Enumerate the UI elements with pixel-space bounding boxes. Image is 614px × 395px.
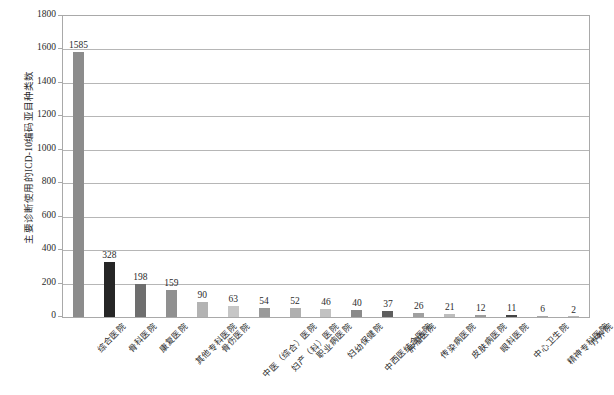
bar-slot: 90 (187, 16, 218, 317)
bar[interactable] (568, 316, 579, 317)
y-tick-label: 1600 (10, 42, 56, 52)
bar-value-label: 40 (352, 298, 362, 308)
bar-value-label: 2 (571, 305, 576, 315)
bar-value-label: 52 (290, 296, 300, 306)
bar-slot: 40 (341, 16, 372, 317)
bar-value-label: 159 (164, 278, 178, 288)
bar[interactable] (197, 302, 208, 317)
x-tick-label: 综合医院 (94, 320, 128, 354)
y-tick-label: 800 (10, 176, 56, 186)
bar-slot: 159 (156, 16, 187, 317)
bar[interactable] (228, 306, 239, 317)
bar-value-label: 46 (321, 297, 331, 307)
bar-slot: 6 (527, 16, 558, 317)
bar-value-label: 198 (133, 272, 147, 282)
bar[interactable] (104, 262, 115, 317)
bar-slot: 52 (280, 16, 311, 317)
x-tick-label: 疗养院 (586, 320, 614, 348)
bar-value-label: 63 (228, 294, 238, 304)
bar-value-label: 6 (540, 304, 545, 314)
y-tick-label: 1200 (10, 109, 56, 119)
bar-slot: 2 (558, 16, 589, 317)
y-tick-label: 400 (10, 243, 56, 253)
x-axis-labels: 综合医院骨科医院康复医院其他专科医院骨伤医院中医（综合）医院妇产（科）医院职业病… (62, 320, 590, 395)
bar-slot: 198 (125, 16, 156, 317)
bar[interactable] (444, 314, 455, 318)
bar-slot: 46 (311, 16, 342, 317)
bar[interactable] (475, 315, 486, 317)
bar-value-label: 11 (507, 303, 516, 313)
bar[interactable] (73, 52, 84, 317)
bar[interactable] (382, 311, 393, 317)
y-tick-label: 600 (10, 210, 56, 220)
y-tick-label: 1000 (10, 143, 56, 153)
x-tick-label: 中心卫生院 (530, 320, 570, 360)
x-tick-label: 康复医院 (156, 320, 190, 354)
bar[interactable] (135, 284, 146, 317)
x-tick-label: 骨科医院 (125, 320, 159, 354)
gridline (63, 317, 589, 318)
bar-value-label: 21 (445, 302, 455, 312)
bar-value-label: 54 (259, 296, 269, 306)
y-tick-label: 1800 (10, 9, 56, 19)
y-tick-label: 1400 (10, 76, 56, 86)
bar-slot: 26 (403, 16, 434, 317)
bar-slot: 11 (496, 16, 527, 317)
bar-series: 1585328198159906354524640372621121162 (63, 16, 589, 317)
bar[interactable] (166, 290, 177, 317)
bar-value-label: 328 (102, 250, 116, 260)
bar-slot: 54 (249, 16, 280, 317)
bar-slot: 1585 (63, 16, 94, 317)
bar-slot: 12 (465, 16, 496, 317)
y-tick-label: 0 (10, 310, 56, 320)
bar-slot: 328 (94, 16, 125, 317)
bar-slot: 21 (434, 16, 465, 317)
bar-value-label: 90 (197, 290, 207, 300)
bar[interactable] (506, 315, 517, 317)
bar[interactable] (413, 313, 424, 317)
bar[interactable] (259, 308, 270, 317)
bar-value-label: 26 (414, 301, 424, 311)
y-tick-label: 200 (10, 277, 56, 287)
bar-value-label: 37 (383, 299, 393, 309)
bar[interactable] (320, 309, 331, 317)
bar[interactable] (537, 316, 548, 317)
bar[interactable] (351, 310, 362, 317)
bar-slot: 37 (372, 16, 403, 317)
bar-value-label: 12 (476, 303, 486, 313)
plot-area: 1585328198159906354524640372621121162 (62, 15, 590, 318)
bar-value-label: 1585 (69, 40, 88, 50)
bar[interactable] (290, 308, 301, 317)
bar-slot: 63 (218, 16, 249, 317)
